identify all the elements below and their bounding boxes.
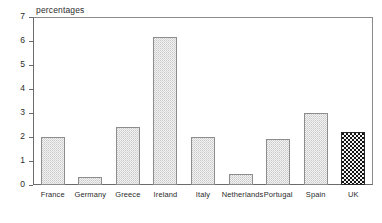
bar[interactable] (191, 137, 215, 185)
y-axis-tick-label: 0 (20, 179, 25, 190)
x-axis-tick-label: UK (334, 190, 372, 200)
x-axis-tick-label: France (34, 190, 72, 200)
bar-chart: percentages 01234567 FranceGermanyGreece… (0, 0, 382, 223)
x-axis: FranceGermanyGreeceIrelandItalyNetherlan… (34, 190, 372, 210)
bar[interactable] (341, 132, 365, 185)
bar-slot (334, 17, 372, 185)
y-axis: 01234567 (0, 17, 33, 185)
y-axis-tick-label: 1 (20, 155, 25, 166)
y-axis-title: percentages (36, 5, 84, 15)
x-axis-tick-label: Spain (297, 190, 335, 200)
bar[interactable] (78, 177, 102, 185)
bar-slot (222, 17, 260, 185)
bar[interactable] (153, 37, 177, 185)
bar[interactable] (304, 113, 328, 185)
bar[interactable] (116, 127, 140, 185)
bar-slot (147, 17, 185, 185)
y-axis-tick-label: 7 (20, 11, 25, 22)
x-axis-tick-label: Italy (184, 190, 222, 200)
bar-slot (109, 17, 147, 185)
bar-slot (34, 17, 72, 185)
bar-slot (72, 17, 110, 185)
y-axis-tick-label: 6 (20, 35, 25, 46)
x-axis-tick-label: Greece (109, 190, 147, 200)
bar[interactable] (266, 139, 290, 185)
y-axis-tick-label: 4 (20, 83, 25, 94)
y-axis-tick-label: 5 (20, 59, 25, 70)
x-axis-tick-label: Ireland (147, 190, 185, 200)
x-axis-tick-label: Germany (72, 190, 110, 200)
bars-layer (34, 17, 372, 185)
bar-slot (297, 17, 335, 185)
bar-slot (184, 17, 222, 185)
x-axis-tick-label: Netherlands (222, 190, 260, 200)
bar[interactable] (41, 137, 65, 185)
bar-slot (259, 17, 297, 185)
x-axis-tick-label: Portugal (259, 190, 297, 200)
y-axis-tick-label: 2 (20, 131, 25, 142)
y-axis-tick-mark (29, 185, 33, 186)
bar[interactable] (229, 174, 253, 185)
y-axis-tick-label: 3 (20, 107, 25, 118)
